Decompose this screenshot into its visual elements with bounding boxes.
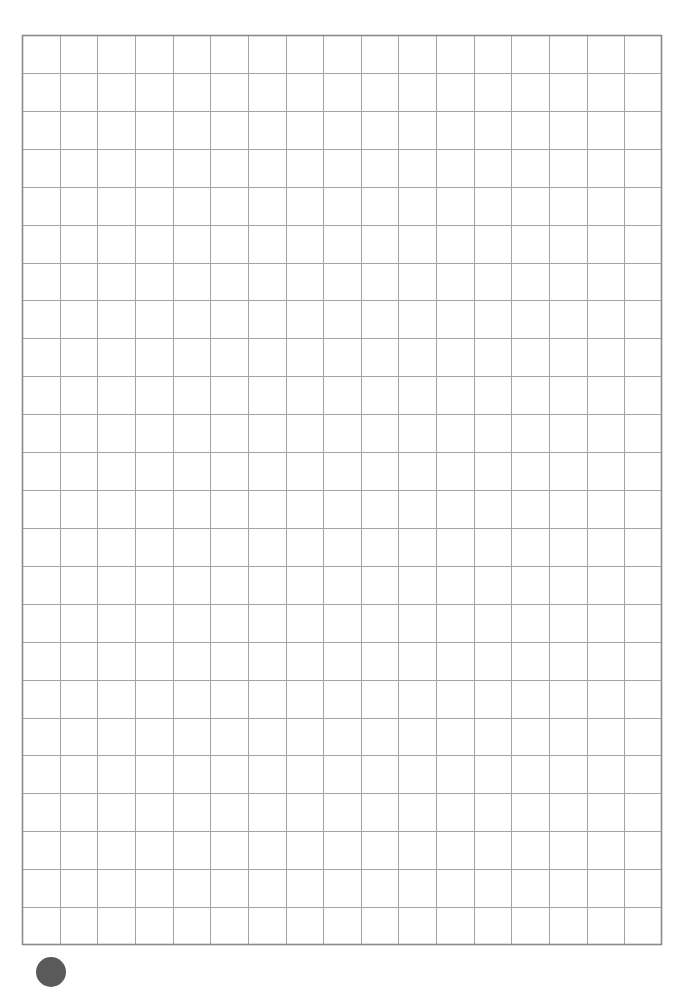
grid <box>22 35 662 945</box>
grid-lines <box>22 35 662 945</box>
page-marker-circle <box>36 957 66 987</box>
